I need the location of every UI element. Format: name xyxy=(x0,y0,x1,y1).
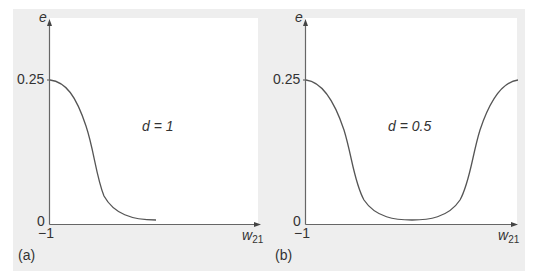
x-axis-label-a: w21 xyxy=(242,228,263,245)
x-tick-label-a-min: −1 xyxy=(38,226,54,240)
annotation-b: d = 0.5 xyxy=(388,119,431,133)
y-tick-label-b-025: 0.25 xyxy=(273,72,300,86)
figure-plots xyxy=(0,0,536,277)
annotation-a: d = 1 xyxy=(142,119,174,133)
x-axis-label-b: w21 xyxy=(498,228,519,245)
y-axis-label-b: e xyxy=(295,10,303,24)
x-tick-label-b-min: −1 xyxy=(294,226,310,240)
panel-label-a: (a) xyxy=(18,248,35,262)
panel-label-b: (b) xyxy=(275,248,292,262)
y-axis-label-a: e xyxy=(39,10,47,24)
y-tick-label-a-025: 0.25 xyxy=(17,72,44,86)
